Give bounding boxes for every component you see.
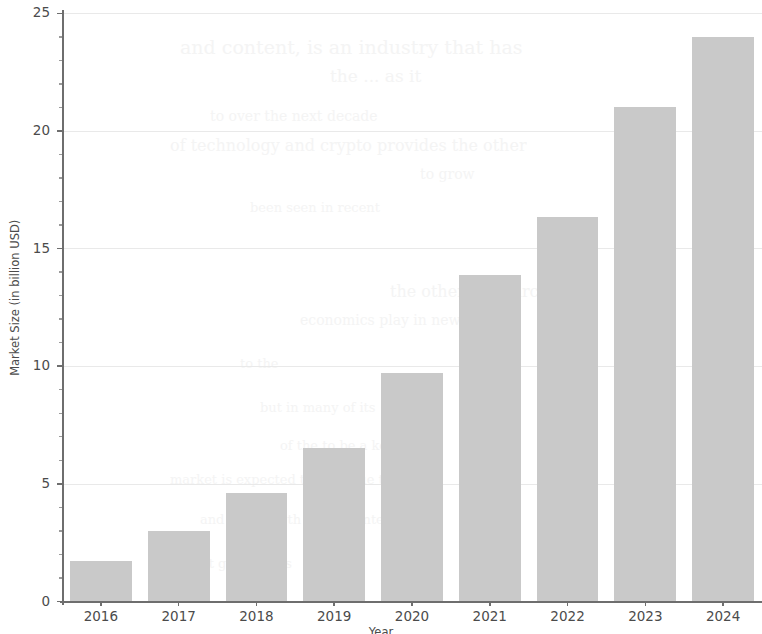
y-minor-tick-mark — [59, 177, 62, 178]
x-tick-mark — [100, 601, 102, 606]
x-tick-mark — [256, 601, 258, 606]
bar-2023 — [614, 107, 676, 601]
y-tick-label: 0 — [10, 595, 50, 609]
bar-2018 — [226, 493, 288, 601]
y-tick-mark — [57, 601, 62, 603]
bar-2020 — [381, 373, 443, 601]
y-tick-mark — [57, 130, 62, 132]
x-tick-label-2019: 2019 — [299, 610, 369, 624]
y-minor-tick-mark — [59, 318, 62, 319]
y-minor-tick-mark — [59, 460, 62, 461]
x-tick-mark — [411, 601, 413, 606]
y-tick-label: 25 — [10, 6, 50, 20]
plot-area — [62, 13, 762, 602]
y-minor-tick-mark — [59, 107, 62, 108]
bar-2017 — [148, 531, 210, 602]
gridline — [62, 13, 762, 14]
y-minor-tick-mark — [59, 201, 62, 202]
x-tick-mark — [722, 601, 724, 606]
y-minor-tick-mark — [59, 530, 62, 531]
y-axis-title: Market Size (in billion USD) — [10, 143, 22, 453]
y-minor-tick-mark — [59, 554, 62, 555]
bar-2019 — [303, 448, 365, 601]
y-minor-tick-mark — [59, 507, 62, 508]
bar-2022 — [537, 217, 599, 602]
y-minor-tick-mark — [59, 224, 62, 225]
y-minor-tick-mark — [59, 271, 62, 272]
y-tick-mark — [57, 483, 62, 485]
x-tick-label-2017: 2017 — [144, 610, 214, 624]
y-minor-tick-mark — [59, 413, 62, 414]
y-minor-tick-mark — [59, 60, 62, 61]
y-tick-label: 20 — [10, 124, 50, 138]
x-tick-label-2022: 2022 — [533, 610, 603, 624]
y-tick-mark — [57, 13, 62, 15]
x-axis-title: Year — [0, 627, 762, 634]
bar-2021 — [459, 275, 521, 601]
bar-chart-figure: and content, is an industry that hasthe … — [0, 0, 762, 634]
bar-2016 — [70, 561, 132, 601]
y-minor-tick-mark — [59, 389, 62, 390]
y-tick-label: 5 — [10, 477, 50, 491]
x-tick-label-2016: 2016 — [66, 610, 136, 624]
x-tick-label-2020: 2020 — [377, 610, 447, 624]
y-minor-tick-mark — [59, 577, 62, 578]
x-tick-label-2024: 2024 — [688, 610, 758, 624]
y-minor-tick-mark — [59, 436, 62, 437]
x-tick-mark — [333, 601, 335, 606]
bar-2024 — [692, 37, 754, 602]
y-minor-tick-mark — [59, 342, 62, 343]
x-tick-mark — [645, 601, 647, 606]
y-tick-mark — [57, 248, 62, 250]
x-tick-label-2023: 2023 — [610, 610, 680, 624]
x-tick-mark — [567, 601, 569, 606]
y-minor-tick-mark — [59, 36, 62, 37]
x-tick-label-2021: 2021 — [455, 610, 525, 624]
y-tick-mark — [57, 365, 62, 367]
x-tick-label-2018: 2018 — [221, 610, 291, 624]
x-tick-mark — [178, 601, 180, 606]
y-axis-line — [62, 10, 64, 605]
x-tick-mark — [489, 601, 491, 606]
y-minor-tick-mark — [59, 295, 62, 296]
y-minor-tick-mark — [59, 83, 62, 84]
y-minor-tick-mark — [59, 154, 62, 155]
